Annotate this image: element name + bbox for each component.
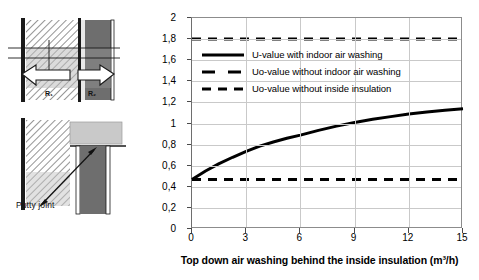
legend-key-solid-line <box>200 49 252 61</box>
y-axis-tick-label: 1,8 <box>136 33 176 44</box>
chart-legend: U-value with indoor air washing Uo-value… <box>200 47 450 98</box>
x-axis-title-text: Top down air washing behind the inside i… <box>181 254 459 266</box>
y-axis-tick-label: 0,2 <box>136 201 176 212</box>
wall-section-top-drawing: R₁ R₂ <box>8 14 136 110</box>
legend-label-0: U-value with indoor air washing <box>252 49 382 60</box>
y-axis-tick-label: 0 <box>136 223 176 234</box>
figure-root: R₁ R₂ <box>0 0 479 280</box>
legend-key-dashed-line-wide <box>200 66 252 78</box>
gridline-horizontal <box>192 39 461 40</box>
x-axis-tick-label: 12 <box>388 232 428 243</box>
x-axis-tick-label: 6 <box>279 232 319 243</box>
legend-key-dashed-line-narrow <box>200 83 252 95</box>
legend-label-1: Uo-value without indoor air washing <box>252 66 401 77</box>
x-axis-tick-label: 9 <box>334 232 374 243</box>
y-axis-tick-label: 1 <box>136 117 176 128</box>
gridline-horizontal <box>192 166 461 167</box>
legend-item-uo-value-without-air-washing: Uo-value without indoor air washing <box>200 64 450 79</box>
gridline-horizontal <box>192 187 461 188</box>
legend-label-2: Uo-value without inside insulation <box>252 83 391 94</box>
wall-section-bottom-drawing <box>8 110 136 232</box>
x-axis-tick-label: 15 <box>442 232 479 243</box>
gridline-horizontal <box>192 145 461 146</box>
legend-item-u-value-with-air-washing: U-value with indoor air washing <box>200 47 450 62</box>
x-axis-title: Top down air washing behind the inside i… <box>160 254 479 266</box>
y-axis-tick-label: 1,6 <box>136 54 176 65</box>
x-axis-tick-label: 0 <box>171 232 211 243</box>
gridline-horizontal <box>192 102 461 103</box>
y-axis-tick-label: 0,6 <box>136 159 176 170</box>
y-axis-tick-label: 1,2 <box>136 96 176 107</box>
putty-joint-label: Putty joint <box>16 200 54 210</box>
legend-item-uo-value-without-insulation: Uo-value without inside insulation <box>200 81 450 96</box>
resistance-label-r2: R₂ <box>88 90 96 97</box>
gridline-horizontal <box>192 208 461 209</box>
y-axis-tick-label: 0,4 <box>136 180 176 191</box>
y-axis-tick-label: 2 <box>136 12 176 23</box>
x-axis-tick-label: 3 <box>225 232 265 243</box>
gridline-horizontal <box>192 124 461 125</box>
y-axis-tick-label: 1,4 <box>136 75 176 86</box>
chart-container: Apparent thermal transmittance (W/(m² K)… <box>160 0 479 280</box>
resistance-label-r1: R₁ <box>45 90 53 97</box>
y-axis-tick-label: 0,8 <box>136 138 176 149</box>
